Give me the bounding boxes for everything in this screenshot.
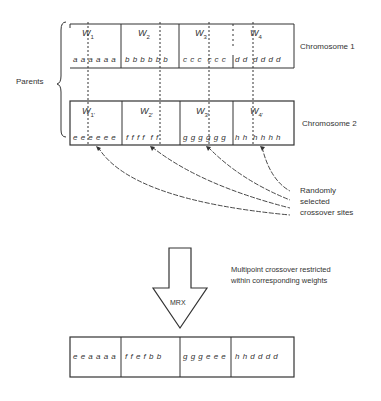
genes-w4-prime: h h h h h h	[235, 133, 281, 142]
offspring-segment-3: g g g e e e	[183, 352, 226, 361]
crossover-sites-label: Randomly selected crossover sites	[300, 185, 353, 218]
weight-label-w3-prime: W3'	[196, 106, 209, 118]
chromosome1-label: Chromosome 1	[300, 42, 355, 51]
genes-w3: c c c c c c	[183, 55, 226, 64]
genes-w1-prime: e e e e e e	[73, 133, 116, 142]
mrx-arrow	[153, 248, 207, 328]
offspring-segment-4: h h d d d d	[235, 352, 278, 361]
parents-brace	[57, 22, 66, 137]
weight-label-w2: W2	[138, 28, 150, 40]
genes-w4: d d d d d d	[235, 55, 281, 64]
genes-w2-prime: f f f f f f	[126, 133, 159, 142]
genes-w1: a a a a a a	[73, 55, 116, 64]
genes-w2: b b b b b b	[125, 55, 168, 64]
weight-label-w4: W4	[250, 28, 262, 40]
description-label: Multipoint crossover restricted within c…	[231, 264, 331, 286]
weight-label-w3: W3	[195, 28, 207, 40]
weight-label-w2-prime: W2'	[140, 106, 153, 118]
leader-arrowheads	[96, 146, 265, 151]
weight-label-w4-prime: W4'	[250, 106, 263, 118]
chromosome2-label: Chromosome 2	[302, 119, 357, 128]
leader-curves	[98, 147, 290, 215]
genes-w3-prime: g g g g g g	[183, 133, 226, 142]
offspring-segment-2: f f e f b b	[125, 352, 162, 361]
crossover-site-lines	[88, 22, 253, 145]
weight-label-w1: W1	[82, 28, 94, 40]
parents-label: Parents	[16, 77, 44, 86]
mrx-label: MRX	[170, 299, 186, 306]
weight-label-w1-prime: W1'	[82, 106, 95, 118]
offspring-segment-1: e e a a a a	[73, 352, 116, 361]
